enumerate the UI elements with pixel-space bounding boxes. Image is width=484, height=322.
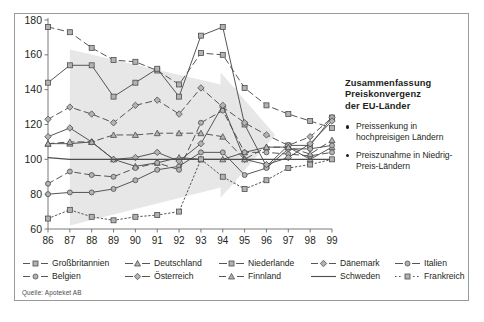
legend-item-label: Finnland (248, 271, 281, 282)
svg-text:97: 97 (283, 235, 295, 246)
svg-text:99: 99 (326, 235, 338, 246)
data-point (155, 160, 160, 165)
data-point (177, 167, 182, 172)
legend-line-sample (218, 258, 245, 269)
svg-text:80: 80 (30, 188, 42, 200)
svg-text:100: 100 (24, 153, 42, 165)
data-point (330, 125, 335, 130)
data-point (46, 24, 51, 29)
legend-item-label: Italien (424, 258, 447, 269)
data-point (286, 166, 291, 171)
data-point (198, 157, 203, 162)
data-point (89, 214, 94, 219)
legend-marker (33, 261, 38, 266)
data-point (133, 166, 138, 171)
data-point (45, 133, 51, 139)
svg-text:96: 96 (261, 235, 273, 246)
line-chart: 6080100120140160180868788899091929394959… (18, 12, 338, 255)
summary-title-line-3: der EU-Länder (345, 101, 410, 111)
chart-plot-area: 6080100120140160180868788899091929394959… (18, 12, 338, 255)
legend-line-sample (124, 258, 151, 269)
data-point (177, 94, 182, 99)
summary-bullet-item: Preiszunahme in Niedrig-Preis-Ländern (345, 150, 457, 172)
data-point (330, 143, 335, 148)
data-point (46, 192, 51, 197)
data-point (177, 82, 182, 87)
legend-item-schweden[interactable]: Schweden (310, 271, 380, 282)
legend-item-label: Belgien (52, 271, 81, 282)
svg-text:93: 93 (195, 235, 207, 246)
data-point (46, 216, 51, 221)
data-point (264, 103, 269, 108)
data-point (45, 116, 51, 122)
svg-text:88: 88 (86, 235, 98, 246)
data-point (330, 157, 335, 162)
data-point (133, 80, 138, 85)
chart-legend: GroßbritannienDeutschlandNiederlandeDäne… (22, 257, 462, 283)
legend-row: GroßbritannienDeutschlandNiederlandeDäne… (22, 257, 462, 270)
data-point (67, 190, 72, 195)
summary-bullet-item: Preissenkung in hochpreisigen Ländern (345, 121, 457, 143)
legend-line-sample (22, 258, 49, 269)
legend-item-italien[interactable]: Italien (394, 258, 447, 269)
data-point (198, 51, 203, 56)
convergence-band (70, 50, 275, 226)
y-axis-ticks: 6080100120140160180 (24, 14, 48, 235)
legend-item-label: Deutschland (154, 258, 202, 269)
summary-title-line-2: Preiskonvergenz (345, 89, 421, 99)
data-point (220, 52, 225, 57)
data-point (220, 150, 225, 155)
data-point (111, 58, 116, 63)
data-point (111, 218, 116, 223)
data-point (286, 112, 291, 117)
data-point (198, 33, 203, 38)
legend-line-sample (310, 271, 337, 282)
data-point (89, 190, 94, 195)
legend-item-label: Dänemark (340, 258, 380, 269)
legend-item-finnland[interactable]: Finnland (218, 271, 281, 282)
legend-item-label: Frankreich (424, 271, 465, 282)
data-point (111, 94, 116, 99)
legend-item-label: Schweden (340, 271, 380, 282)
legend-item-deutschland[interactable]: Deutschland (124, 258, 202, 269)
legend-marker (229, 274, 235, 280)
data-point (155, 66, 160, 71)
summary-title: Zusammenfassung Preiskonvergenz der EU-L… (345, 78, 457, 112)
figure-root: 6080100120140160180868788899091929394959… (0, 0, 484, 322)
data-point (155, 167, 160, 172)
legend-marker (135, 261, 141, 267)
data-point (111, 186, 116, 191)
data-point (111, 174, 116, 179)
legend-item-frankreich[interactable]: Frankreich (394, 271, 465, 282)
svg-text:86: 86 (42, 235, 54, 246)
legend-item-label: Niederlande (248, 258, 294, 269)
legend-item-belgien[interactable]: Belgien (22, 271, 81, 282)
data-point (67, 169, 72, 174)
data-point (264, 178, 269, 183)
data-point (133, 214, 138, 219)
data-point (133, 178, 138, 183)
data-point (46, 80, 51, 85)
legend-line-sample (22, 271, 49, 282)
data-point (133, 59, 138, 64)
legend-item-danemark[interactable]: Dänemark (310, 258, 380, 269)
summary-panel: Zusammenfassung Preiskonvergenz der EU-L… (345, 78, 457, 178)
data-point (308, 119, 313, 124)
legend-item-niederlande[interactable]: Niederlande (218, 258, 294, 269)
svg-text:94: 94 (217, 235, 229, 246)
legend-item-label: Großbritannien (52, 258, 109, 269)
legend-item-osterreich[interactable]: Österreich (124, 271, 194, 282)
data-point (67, 30, 72, 35)
legend-line-sample (394, 258, 421, 269)
data-point (264, 150, 269, 155)
svg-text:180: 180 (24, 14, 42, 26)
legend-item-grossbritannien[interactable]: Großbritannien (22, 258, 109, 269)
summary-bullet-list: Preissenkung in hochpreisigen Ländern Pr… (345, 121, 457, 172)
legend-row: BelgienÖsterreichFinnlandSchwedenFrankre… (22, 270, 462, 283)
data-point (330, 150, 335, 155)
svg-text:95: 95 (239, 235, 251, 246)
data-point (155, 213, 160, 218)
data-point (198, 120, 203, 125)
svg-text:90: 90 (130, 235, 142, 246)
data-point (329, 137, 335, 143)
